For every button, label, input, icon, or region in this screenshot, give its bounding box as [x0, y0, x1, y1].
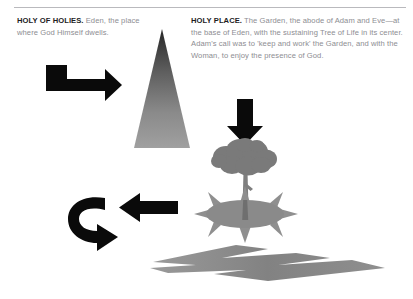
tree-canopy	[211, 138, 277, 176]
curved-arrow-icon	[68, 197, 118, 251]
river-lightning	[150, 245, 385, 281]
left-arrow-icon-shape	[119, 193, 178, 222]
diagram-artwork	[0, 0, 413, 299]
elbow-arrow-right-icon	[46, 65, 122, 101]
mountain-triangle	[134, 29, 190, 148]
diagram-page: HOLY OF HOLIES. Eden, the place where Go…	[0, 0, 413, 299]
tree-trunk-front	[242, 200, 248, 220]
